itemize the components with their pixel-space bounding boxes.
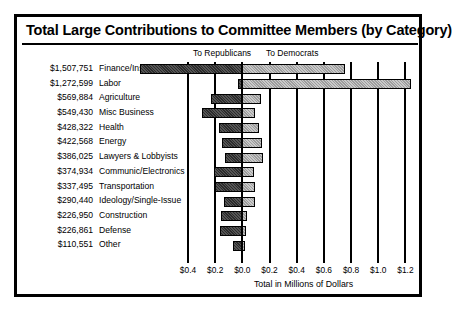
row-category-label: Lawyers & Lobbyists (99, 151, 178, 161)
axis-tick-label: $1.2 (388, 265, 422, 275)
row-total-amount: $290,440 (17, 195, 93, 205)
bar-democrat (242, 108, 254, 118)
bar-republican (215, 182, 242, 192)
bar-democrat (242, 153, 262, 163)
bar-republican (233, 241, 243, 251)
row-category-label: Communic/Electronics (99, 166, 184, 176)
axis-tick (323, 255, 325, 263)
legend-label-republicans: To Republicans (193, 48, 251, 58)
bar-republican (222, 138, 242, 148)
row-total-amount: $1,272,599 (17, 78, 93, 88)
gridline (377, 62, 379, 255)
bar-democrat (242, 241, 245, 251)
bar-democrat (242, 167, 254, 177)
row-total-amount: $374,934 (17, 166, 93, 176)
gridline (214, 62, 216, 255)
bar-republican (140, 64, 243, 74)
bar-republican (211, 94, 242, 104)
row-total-amount: $386,025 (17, 151, 93, 161)
axis-tick (296, 255, 298, 263)
bar-republican (221, 211, 243, 221)
row-total-amount: $110,551 (17, 239, 93, 249)
bar-democrat (242, 197, 254, 207)
bar-democrat (242, 123, 258, 133)
x-axis: Total in Millions of Dollars $0.4$0.2$0.… (188, 255, 419, 299)
bar-democrat (242, 64, 344, 74)
gridline (187, 62, 189, 255)
row-total-amount: $1,507,751 (17, 63, 93, 73)
bar-republican (220, 226, 242, 236)
row-category-label: Labor (99, 78, 121, 88)
row-total-amount: $549,430 (17, 107, 93, 117)
gridline (269, 62, 271, 255)
row-category-label: Energy (99, 136, 126, 146)
axis-tick (269, 255, 271, 263)
row-category-label: Defense (99, 225, 131, 235)
bar-republican (225, 153, 243, 163)
row-category-label: Construction (99, 210, 147, 220)
axis-tick (187, 255, 189, 263)
plot-area (188, 62, 419, 255)
row-total-amount: $226,861 (17, 225, 93, 235)
bar-democrat (242, 182, 254, 192)
chart-frame: Total Large Contributions to Committee M… (14, 14, 422, 297)
row-total-amount: $569,884 (17, 92, 93, 102)
gridline (296, 62, 298, 255)
bar-republican (214, 167, 242, 177)
bar-democrat (242, 211, 246, 221)
row-total-amount: $428,322 (17, 122, 93, 132)
gridline (404, 62, 406, 255)
axis-tick (404, 255, 406, 263)
row-total-amount: $337,495 (17, 181, 93, 191)
gridline (323, 62, 325, 255)
row-total-amount: $226,950 (17, 210, 93, 220)
gridline (350, 62, 352, 255)
bar-republican (219, 123, 243, 133)
row-category-label: Transportation (99, 181, 154, 191)
row-total-amount: $422,568 (17, 136, 93, 146)
bar-democrat (242, 79, 410, 89)
bar-democrat (242, 138, 262, 148)
axis-tick (214, 255, 216, 263)
legend-label-democrats: To Democrats (266, 48, 318, 58)
bar-republican (202, 108, 243, 118)
axis-tick (350, 255, 352, 263)
bar-democrat (242, 94, 261, 104)
bar-democrat (242, 226, 246, 236)
row-category-label: Other (99, 239, 121, 249)
x-axis-title: Total in Millions of Dollars (188, 279, 419, 289)
row-category-label: Misc Business (99, 107, 154, 117)
axis-tick (241, 255, 243, 263)
chart-title: Total Large Contributions to Committee M… (26, 22, 452, 38)
row-category-label: Agriculture (99, 92, 140, 102)
row-category-label: Ideology/Single-Issue (99, 195, 181, 205)
bar-republican (224, 197, 242, 207)
axis-tick (377, 255, 379, 263)
title-divider (22, 43, 418, 45)
row-category-label: Health (99, 122, 124, 132)
